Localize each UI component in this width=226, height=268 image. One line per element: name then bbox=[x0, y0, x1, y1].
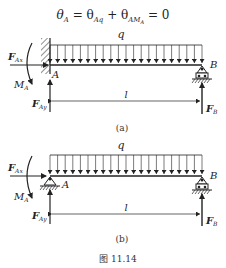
distributed-load-arrows bbox=[50, 155, 202, 174]
label-length: l bbox=[124, 202, 127, 213]
ground-hatch bbox=[49, 186, 52, 190]
fixed-wall-hatch bbox=[41, 38, 50, 74]
ground-hatch bbox=[40, 186, 43, 190]
ground-hatch bbox=[201, 190, 204, 194]
ground-hatch bbox=[46, 186, 49, 190]
roller-support-B bbox=[192, 66, 212, 83]
label-FAx: FAx bbox=[7, 162, 23, 174]
ground-hatch bbox=[192, 190, 195, 194]
ground-hatch bbox=[55, 186, 58, 190]
moment-arc-MA bbox=[27, 43, 32, 84]
label-B: B bbox=[209, 59, 217, 70]
label-A: A bbox=[51, 69, 59, 80]
label-MA: MA bbox=[13, 191, 29, 203]
ground-hatch bbox=[43, 186, 46, 190]
roller-support-B bbox=[192, 177, 212, 194]
diagram-a: q FAx MA A FAy B FB bbox=[7, 28, 218, 133]
label-length: l bbox=[124, 89, 127, 100]
ground-hatch bbox=[207, 79, 210, 83]
ground-hatch bbox=[195, 79, 198, 83]
ground-hatch bbox=[192, 79, 195, 83]
ground-hatch bbox=[204, 79, 207, 83]
beam-figure: θA = θAq + θAMA = 0 q FAx MA A FAy bbox=[0, 0, 226, 268]
label-A: A bbox=[61, 179, 69, 190]
ground-hatch bbox=[201, 79, 204, 83]
ground-hatch bbox=[195, 190, 198, 194]
ground-hatch bbox=[198, 190, 201, 194]
distributed-load-arrows bbox=[50, 45, 202, 63]
label-FAx: FAx bbox=[7, 51, 23, 63]
load-label-q: q bbox=[117, 139, 124, 152]
ground-hatch bbox=[204, 190, 207, 194]
label-FAy: FAy bbox=[31, 210, 47, 223]
equation: θA = θAq + θAMA = 0 bbox=[57, 8, 170, 25]
load-label-q: q bbox=[117, 28, 124, 41]
label-FB: FB bbox=[205, 103, 218, 115]
diagram-b: q FAx MA A FAy B FB bbox=[7, 139, 218, 244]
label-FB: FB bbox=[205, 215, 218, 227]
ground-hatch bbox=[198, 79, 201, 83]
label-MA: MA bbox=[13, 79, 29, 91]
moment-arc-MA bbox=[27, 156, 32, 198]
figure-caption: 图 11.14 bbox=[99, 254, 137, 264]
label-B: B bbox=[209, 170, 217, 181]
pin-support-A bbox=[40, 177, 60, 190]
ground-hatch bbox=[207, 190, 210, 194]
ground-hatch bbox=[52, 186, 55, 190]
label-FAy: FAy bbox=[31, 98, 47, 111]
caption-a: (a) bbox=[116, 123, 128, 133]
caption-b: (b) bbox=[116, 234, 129, 244]
